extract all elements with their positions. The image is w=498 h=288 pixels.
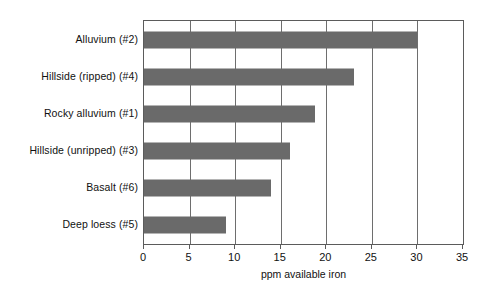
x-tick-label: 30 bbox=[410, 251, 422, 263]
category-label: Alluvium (#2) bbox=[0, 33, 138, 44]
category-label: Hillside (unripped) (#3) bbox=[0, 145, 138, 156]
bar bbox=[144, 217, 226, 234]
x-tick-label: 5 bbox=[186, 251, 192, 263]
x-tick-mark bbox=[189, 244, 190, 249]
x-axis: ppm available iron 05101520253035 bbox=[143, 244, 464, 288]
x-tick-mark bbox=[325, 244, 326, 249]
category-label: Rocky alluvium (#1) bbox=[0, 107, 138, 118]
category-label: Hillside (ripped) (#4) bbox=[0, 70, 138, 81]
x-tick-label: 15 bbox=[274, 251, 286, 263]
gridline bbox=[281, 21, 282, 244]
x-tick-label: 25 bbox=[365, 251, 377, 263]
bar bbox=[144, 31, 417, 48]
x-tick-label: 35 bbox=[456, 251, 468, 263]
bar bbox=[144, 143, 290, 160]
gridline bbox=[235, 21, 236, 244]
category-axis: Alluvium (#2)Hillside (ripped) (#4)Rocky… bbox=[0, 20, 138, 243]
bar bbox=[144, 180, 271, 197]
plot-area bbox=[143, 20, 464, 245]
category-label: Deep loess (#5) bbox=[0, 219, 138, 230]
bar bbox=[144, 68, 354, 85]
category-label: Basalt (#6) bbox=[0, 182, 138, 193]
gridline bbox=[417, 21, 418, 244]
x-tick-mark bbox=[234, 244, 235, 249]
bar-chart: Alluvium (#2)Hillside (ripped) (#4)Rocky… bbox=[0, 0, 498, 288]
gridline bbox=[372, 21, 373, 244]
x-tick-mark bbox=[416, 244, 417, 249]
gridline bbox=[326, 21, 327, 244]
x-tick-label: 0 bbox=[140, 251, 146, 263]
x-tick-mark bbox=[371, 244, 372, 249]
x-tick-mark bbox=[462, 244, 463, 249]
x-tick-mark bbox=[280, 244, 281, 249]
gridline bbox=[190, 21, 191, 244]
x-axis-title: ppm available iron bbox=[143, 268, 464, 280]
x-tick-label: 20 bbox=[319, 251, 331, 263]
x-tick-label: 10 bbox=[228, 251, 240, 263]
x-tick-mark bbox=[143, 244, 144, 249]
bar bbox=[144, 105, 315, 122]
